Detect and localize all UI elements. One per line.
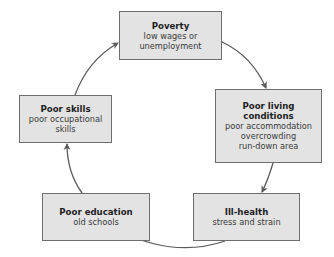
- node-poor-education: Poor education old schools: [42, 193, 150, 241]
- node-skills-desc-line-2: skills: [55, 124, 75, 134]
- node-poor-skills: Poor skills poor occupational skills: [19, 95, 112, 143]
- node-poverty: Poverty low wages or unemployment: [119, 11, 222, 60]
- node-health-title: Ill-health: [225, 207, 269, 217]
- node-living-title-line-1: Poor living: [242, 101, 294, 111]
- node-ill-health: Ill-health stress and strain: [193, 193, 300, 241]
- cycle-of-poverty-diagram: Poverty low wages or unemployment Poor l…: [0, 0, 334, 257]
- arrow-poverty-to-living: [222, 42, 266, 88]
- node-education-title: Poor education: [59, 207, 132, 217]
- node-poor-living-conditions: Poor living conditions poor accommodatio…: [215, 89, 322, 163]
- arrow-living-to-health: [262, 163, 273, 192]
- node-poverty-desc-line-2: unemployment: [139, 41, 201, 51]
- node-living-desc-line-1: poor accommodation: [225, 121, 312, 131]
- node-living-desc-line-3: run-down area: [239, 141, 299, 151]
- node-skills-title: Poor skills: [40, 104, 90, 114]
- node-poverty-desc-line-1: low wages or: [144, 31, 198, 41]
- node-skills-desc-line-1: poor occupational: [29, 114, 103, 124]
- node-living-desc-line-2: overcrowding: [241, 131, 296, 141]
- node-poverty-title: Poverty: [152, 21, 190, 31]
- node-education-desc-line-1: old schools: [73, 217, 119, 227]
- node-health-desc-line-1: stress and strain: [212, 217, 280, 227]
- arrow-skills-to-poverty: [75, 43, 118, 95]
- arrow-education-to-skills: [67, 144, 82, 193]
- node-living-title-line-2: conditions: [243, 111, 293, 121]
